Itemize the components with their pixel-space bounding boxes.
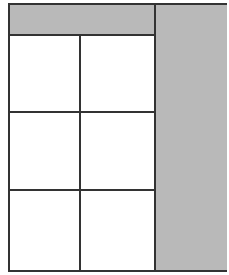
grid-cell-r3-c2 — [81, 191, 154, 270]
grid-cell-r2-c2 — [81, 113, 154, 191]
content-grid — [10, 36, 154, 270]
grid-cell-r2-c1 — [10, 113, 81, 191]
grid-cell-r3-c1 — [10, 191, 81, 270]
grid-cell-r1-c1 — [10, 36, 81, 113]
grid-cell-r1-c2 — [81, 36, 154, 113]
side-column — [154, 5, 227, 270]
header-bar — [10, 5, 154, 36]
layout-frame — [8, 3, 227, 272]
